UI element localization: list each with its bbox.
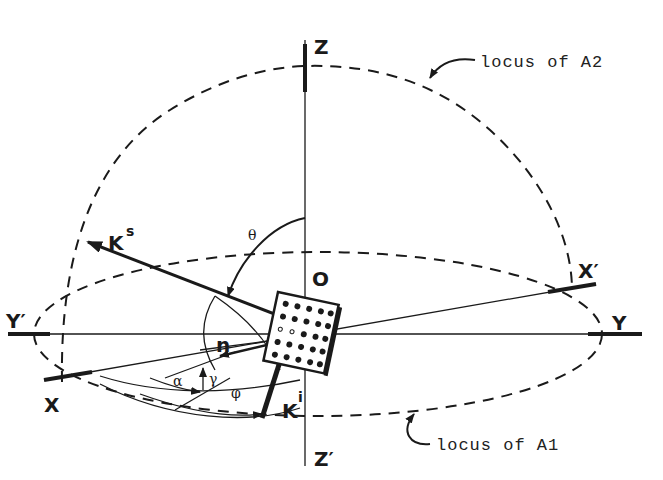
incident-vector-sup: i: [298, 389, 303, 405]
sample-plate: [263, 292, 343, 376]
y-pos-label: Y: [611, 311, 627, 335]
locus-a2-annotation: locus of A2: [480, 53, 603, 72]
z-neg-label: Z′: [314, 447, 334, 471]
y-neg-label: Y′: [5, 309, 26, 333]
scattered-vector-label: K: [108, 231, 125, 255]
locus-a1-leader: [407, 414, 430, 444]
gamma-label: γ: [209, 371, 217, 387]
x-pos-label: X: [44, 393, 60, 417]
incident-vector-label: K: [282, 399, 299, 423]
construction-arc-1: [204, 296, 215, 370]
origin-label: O: [312, 267, 329, 291]
theta-arc: [228, 218, 305, 296]
x-neg-tick: [548, 284, 596, 292]
scattered-vector-sup: s: [126, 223, 134, 239]
scattering-diagram: Z Z′ Y Y′ X X′ O K s K i n θ α γ φ locus…: [0, 0, 663, 480]
locus-a1-annotation: locus of A1: [436, 436, 559, 455]
alpha-label: α: [173, 373, 183, 389]
normal-vector-label: n: [216, 333, 230, 357]
theta-label: θ: [248, 227, 256, 243]
phi-arrow: [140, 394, 262, 415]
x-neg-label: X′: [578, 259, 599, 283]
locus-a2-leader: [430, 59, 475, 78]
x-pos-tick: [44, 372, 92, 380]
phi-label: φ: [231, 385, 241, 401]
z-pos-label: Z: [314, 35, 329, 59]
